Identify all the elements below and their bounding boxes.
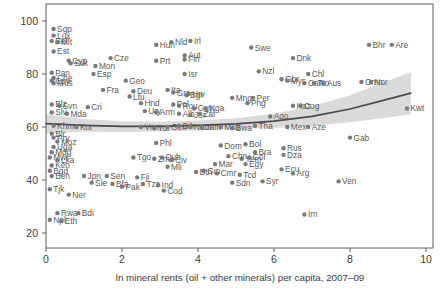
data-point-Ltu: Ltu bbox=[127, 92, 145, 102]
y-tick-label: 100 bbox=[20, 15, 38, 27]
point-dot bbox=[285, 125, 289, 129]
point-label: Tgo bbox=[137, 152, 152, 162]
data-point-Bdi: Bdi bbox=[76, 208, 94, 218]
point-dot bbox=[359, 80, 363, 84]
data-point-Phl: Phl bbox=[154, 138, 172, 148]
data-point-Gab: Gab bbox=[348, 133, 370, 143]
point-dot bbox=[154, 43, 158, 47]
point-dot bbox=[154, 59, 158, 63]
point-label: Nga bbox=[209, 103, 225, 113]
point-dot bbox=[268, 114, 272, 118]
x-tick-label: 8 bbox=[347, 253, 353, 265]
point-dot bbox=[291, 56, 295, 60]
point-label: Ven bbox=[342, 176, 357, 186]
point-dot bbox=[238, 173, 242, 177]
point-dot bbox=[183, 57, 187, 61]
point-label: Mli bbox=[171, 162, 182, 172]
point-dot bbox=[279, 167, 283, 171]
point-label: Syr bbox=[266, 176, 279, 186]
point-dot bbox=[165, 88, 169, 92]
data-point-Tgo: Tgo bbox=[131, 152, 151, 162]
point-dot bbox=[257, 69, 261, 73]
point-dot bbox=[306, 72, 310, 76]
point-label: Bwa bbox=[236, 123, 253, 133]
point-dot bbox=[51, 27, 55, 31]
point-dot bbox=[253, 150, 257, 154]
point-label: Dom bbox=[224, 141, 242, 151]
point-dot bbox=[230, 180, 234, 184]
y-tick-label: 20 bbox=[26, 227, 38, 239]
data-point-Cri: Cri bbox=[86, 102, 102, 112]
point-dot bbox=[369, 80, 373, 84]
point-label: Aze bbox=[312, 122, 327, 132]
point-label: Ben bbox=[55, 171, 70, 181]
data-point-Irn: Irn bbox=[302, 209, 318, 219]
point-dot bbox=[152, 157, 156, 161]
point-label: Swe bbox=[255, 43, 272, 53]
point-label: Ltu bbox=[133, 92, 145, 102]
point-dot bbox=[165, 125, 169, 129]
y-tick-label: 60 bbox=[26, 121, 38, 133]
point-dot bbox=[51, 49, 55, 53]
point-dot bbox=[249, 45, 253, 49]
point-dot bbox=[69, 61, 73, 65]
point-label: Mng bbox=[236, 93, 253, 103]
point-dot bbox=[67, 192, 71, 196]
point-label: Irn bbox=[308, 209, 318, 219]
point-dot bbox=[200, 125, 204, 129]
point-dot bbox=[245, 101, 249, 105]
point-label: Gab bbox=[354, 133, 370, 143]
data-point-Irl: Irl bbox=[188, 36, 201, 46]
point-dot bbox=[101, 88, 105, 92]
point-dot bbox=[48, 187, 52, 191]
point-dot bbox=[230, 126, 234, 130]
point-label: Fra bbox=[107, 85, 120, 95]
point-dot bbox=[202, 169, 206, 173]
point-dot bbox=[82, 174, 86, 178]
point-label: Tha bbox=[259, 121, 274, 131]
data-point-Syr: Syr bbox=[260, 176, 278, 186]
point-dot bbox=[91, 72, 95, 76]
point-dot bbox=[302, 81, 306, 85]
data-point-Prt: Prt bbox=[154, 56, 171, 66]
point-dot bbox=[139, 125, 143, 129]
point-dot bbox=[160, 155, 164, 159]
point-label: Nzl bbox=[262, 66, 274, 76]
point-label: Bgr bbox=[190, 90, 203, 100]
data-point-Alb: Alb bbox=[177, 109, 195, 119]
point-label: Bhr bbox=[373, 40, 386, 50]
point-dot bbox=[74, 125, 78, 129]
data-point-Geo: Geo bbox=[124, 76, 146, 86]
data-point-Bhr: Bhr bbox=[367, 40, 386, 50]
data-point-Dza: Dza bbox=[281, 150, 302, 160]
point-dot bbox=[184, 93, 188, 97]
point-dot bbox=[302, 212, 306, 216]
point-dot bbox=[169, 40, 173, 44]
point-label: Arm bbox=[160, 107, 175, 117]
point-dot bbox=[48, 169, 52, 173]
point-dot bbox=[348, 135, 352, 139]
point-label: Nld bbox=[175, 37, 188, 47]
point-dot bbox=[48, 218, 52, 222]
x-tick-label: 6 bbox=[271, 253, 277, 265]
data-point-Mng: Mng bbox=[230, 93, 252, 103]
point-dot bbox=[215, 171, 219, 175]
point-label: Cri bbox=[91, 102, 102, 112]
point-dot bbox=[86, 105, 90, 109]
point-dot bbox=[281, 153, 285, 157]
point-dot bbox=[188, 39, 192, 43]
point-dot bbox=[336, 179, 340, 183]
point-label: Irl bbox=[194, 36, 201, 46]
point-dot bbox=[131, 155, 135, 159]
point-dot bbox=[135, 175, 139, 179]
point-dot bbox=[260, 179, 264, 183]
point-dot bbox=[143, 109, 147, 113]
point-label: Dnk bbox=[297, 53, 313, 63]
point-dot bbox=[177, 104, 181, 108]
point-dot bbox=[50, 70, 54, 74]
data-point-Ven: Ven bbox=[336, 176, 356, 186]
point-dot bbox=[203, 106, 207, 110]
point-dot bbox=[165, 165, 169, 169]
point-dot bbox=[279, 77, 283, 81]
x-axis-title: ln mineral rents (oil + other minerals) … bbox=[116, 272, 365, 283]
